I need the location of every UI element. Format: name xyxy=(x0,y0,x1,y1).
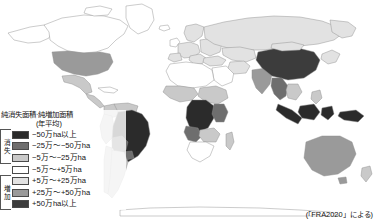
legend-subtitle: (年平均) xyxy=(0,119,97,128)
legend-item-label: +25万〜+50万ha xyxy=(32,189,90,197)
legend-rows: 消失 増加 −50万ha以上 −25万〜−50万ha −5万〜−25万ha −5… xyxy=(0,129,126,210)
source-attribution: (「FRA2020」による) xyxy=(306,210,373,219)
legend-item: −25万〜−50万ha xyxy=(12,141,126,153)
legend-item-label: +5万〜+25万ha xyxy=(32,177,86,185)
legend-swatch xyxy=(12,154,29,162)
legend-item: +5万〜+25万ha xyxy=(12,175,126,187)
legend-item: −5万〜−25万ha xyxy=(12,152,126,164)
legend-item-label: −50万ha以上 xyxy=(32,131,77,139)
map-legend: 純消失面積·純増加面積 (年平均) 消失 増加 −50万ha以上 −25万〜−5… xyxy=(0,110,126,210)
legend-item-label: +50万ha以上 xyxy=(32,200,77,208)
legend-group-loss-label: 消失 xyxy=(3,139,10,154)
legend-group-loss: 消失 xyxy=(0,129,11,164)
legend-swatch xyxy=(12,166,29,174)
legend-item-label: −5万〜+5万ha xyxy=(32,166,82,174)
legend-swatch xyxy=(12,142,29,150)
legend-swatch xyxy=(12,200,29,208)
figure-world-forest-change: 純消失面積·純増加面積 (年平均) 消失 増加 −50万ha以上 −25万〜−5… xyxy=(0,0,376,222)
legend-item: +25万〜+50万ha xyxy=(12,187,126,199)
legend-item: −50万ha以上 xyxy=(12,129,126,141)
legend-item-label: −25万〜−50万ha xyxy=(32,142,90,150)
legend-group-gain-label: 増加 xyxy=(3,185,10,200)
legend-item: −5万〜+5万ha xyxy=(12,164,126,176)
legend-item-label: −5万〜−25万ha xyxy=(32,154,86,162)
legend-swatch xyxy=(12,189,29,197)
legend-item: +50万ha以上 xyxy=(12,199,126,211)
legend-title: 純消失面積·純増加面積 xyxy=(0,110,126,119)
legend-swatch xyxy=(12,131,29,139)
legend-group-gain: 増加 xyxy=(0,175,11,210)
legend-swatch xyxy=(12,177,29,185)
